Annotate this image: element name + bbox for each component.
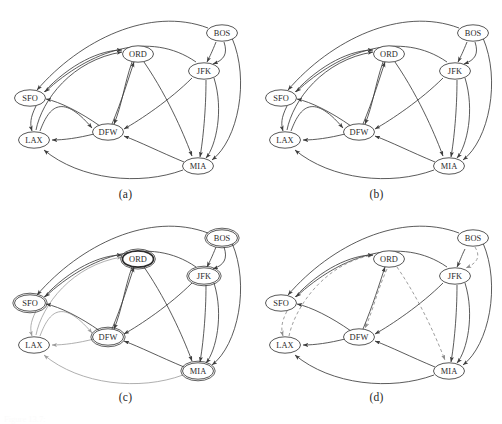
node-lax[interactable]: LAX xyxy=(270,132,301,148)
node-sfo[interactable]: SFO xyxy=(266,90,297,106)
node-sfo[interactable]: SFO xyxy=(266,295,297,311)
edge-bos-mia xyxy=(463,243,492,365)
node-dfw[interactable]: DFW xyxy=(344,329,375,345)
node-jfk-label: JFK xyxy=(448,67,462,76)
edge-ord-dfw-dashed xyxy=(365,269,387,328)
edge-mia-dfw xyxy=(375,341,435,367)
node-sfo-label: SFO xyxy=(22,94,38,103)
edge-lax-dfw xyxy=(291,107,343,131)
panel-c-nodes: SFO LAX ORD DFW xyxy=(13,228,239,381)
edge-bos-jfk xyxy=(207,247,216,267)
node-mia-label: MIA xyxy=(441,162,458,171)
node-jfk[interactable]: JFK xyxy=(187,266,221,286)
node-mia-label: MIA xyxy=(441,367,458,376)
panel-d-graph: SFO LAX ORD DFW JFK xyxy=(251,205,502,417)
edge-dfw-sfo xyxy=(46,304,100,331)
panel-b-edges xyxy=(282,21,492,178)
node-lax-label: LAX xyxy=(25,136,43,145)
edge-dfw-lax xyxy=(52,134,94,140)
panel-b: SFO LAX ORD DFW JFK xyxy=(251,0,502,212)
edge-jfk-mia xyxy=(451,80,457,157)
node-bos[interactable]: BOS xyxy=(458,25,489,41)
edge-bos-jfk xyxy=(457,249,465,267)
node-mia[interactable]: MIA xyxy=(434,158,465,174)
edge-bos-jfk xyxy=(458,42,467,62)
edge-jfk-mia xyxy=(451,285,457,362)
node-bos[interactable]: BOS xyxy=(205,228,239,248)
panel-c-graph: SFO LAX ORD DFW xyxy=(0,205,251,417)
edge-bos-mia xyxy=(463,38,492,160)
panel-d-edges xyxy=(282,226,492,383)
edge-mia-lax xyxy=(44,355,183,384)
node-jfk-label: JFK xyxy=(197,272,211,281)
node-jfk-label: JFK xyxy=(197,67,211,76)
node-lax-label: LAX xyxy=(276,136,294,145)
node-dfw[interactable]: DFW xyxy=(91,327,125,347)
edge-jfk-sfo xyxy=(296,46,447,92)
edge-mia-lax xyxy=(295,355,434,384)
node-jfk[interactable]: JFK xyxy=(189,63,220,79)
node-mia[interactable]: MIA xyxy=(181,361,215,381)
node-dfw-label: DFW xyxy=(99,128,118,137)
panel-a: SFO LAX ORD DFW JFK xyxy=(0,0,251,212)
node-lax[interactable]: LAX xyxy=(19,337,50,353)
node-dfw-label: DFW xyxy=(99,333,118,342)
edge-mia-dfw xyxy=(124,136,184,162)
node-bos[interactable]: BOS xyxy=(207,25,238,41)
edge-jfk-dfw xyxy=(124,283,192,334)
edge-jfk-sfo xyxy=(45,46,196,92)
node-sfo[interactable]: SFO xyxy=(13,293,47,313)
node-mia-label: MIA xyxy=(190,162,207,171)
node-bos[interactable]: BOS xyxy=(458,230,489,246)
node-ord[interactable]: ORD xyxy=(121,249,156,269)
edge-ord-mia xyxy=(395,62,443,156)
edge-dfw-ord xyxy=(363,267,385,329)
edge-dfw-lax xyxy=(303,134,345,140)
panel-b-caption: (b) xyxy=(251,188,502,200)
panel-d-caption: (d) xyxy=(251,391,502,403)
edge-ord-dfw xyxy=(365,62,383,124)
panel-c: SFO LAX ORD DFW xyxy=(0,205,251,417)
node-jfk[interactable]: JFK xyxy=(440,63,471,79)
node-sfo[interactable]: SFO xyxy=(15,90,46,106)
node-dfw[interactable]: DFW xyxy=(344,124,375,140)
edge-jfk-sfo xyxy=(296,251,447,297)
node-ord-label: ORD xyxy=(380,255,398,264)
node-ord[interactable]: ORD xyxy=(374,251,405,267)
node-mia[interactable]: MIA xyxy=(434,363,465,379)
edge-mia-dfw xyxy=(124,341,184,367)
edge-jfk-dfw xyxy=(375,78,443,129)
edge-mia-bos xyxy=(457,283,470,363)
edge-dfw-sfo xyxy=(46,99,100,126)
node-ord[interactable]: ORD xyxy=(374,46,405,62)
edge-dfw-lax xyxy=(52,339,94,345)
edge-jfk-mia xyxy=(200,80,206,157)
edge-dfw-sfo xyxy=(297,304,351,331)
node-lax[interactable]: LAX xyxy=(19,132,50,148)
edge-mia-bos-b xyxy=(206,78,219,158)
edge-sfo-lax xyxy=(31,311,36,336)
edge-mia-lax xyxy=(295,150,434,179)
node-mia[interactable]: MIA xyxy=(183,158,214,174)
panel-a-edges xyxy=(31,21,241,178)
edge-ord-dfw xyxy=(114,62,132,124)
edge-mia-bos-b xyxy=(457,78,470,158)
panel-b-graph: SFO LAX ORD DFW JFK xyxy=(251,0,502,212)
edge-dfw-sfo xyxy=(297,99,351,126)
edge-bos-mia xyxy=(212,38,241,160)
edge-sfo-lax-dashed xyxy=(282,311,287,336)
node-bos-label: BOS xyxy=(214,29,231,38)
node-dfw-label: DFW xyxy=(350,128,369,137)
node-lax-label: LAX xyxy=(276,341,294,350)
node-bos-label: BOS xyxy=(214,234,231,243)
panel-c-edges xyxy=(31,226,241,383)
node-ord[interactable]: ORD xyxy=(123,46,154,62)
node-ord-label: ORD xyxy=(380,50,398,59)
edge-jfk-mia xyxy=(200,285,206,362)
node-sfo-label: SFO xyxy=(22,299,38,308)
panel-c-caption: (c) xyxy=(0,391,251,403)
node-dfw[interactable]: DFW xyxy=(93,124,124,140)
edge-bos-jfk-dashed xyxy=(466,247,478,268)
node-lax[interactable]: LAX xyxy=(270,337,301,353)
node-jfk[interactable]: JFK xyxy=(440,268,471,284)
